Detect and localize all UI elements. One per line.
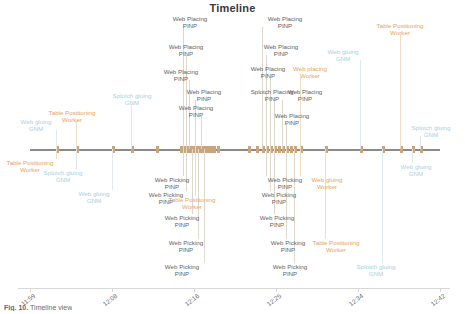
event-leader-line [76, 149, 77, 169]
event-leader-line [56, 149, 57, 159]
event-label[interactable]: Web PickingPINP [268, 176, 302, 191]
event-label-name: Web Picking [165, 263, 199, 270]
event-marker[interactable] [290, 146, 293, 153]
event-label-sub: PINP [271, 246, 305, 253]
event-label-name: Splotch gluing [113, 92, 152, 99]
event-label[interactable]: Splotch gluingGNM [44, 169, 83, 184]
event-label-sub: PINP [165, 221, 199, 228]
event-marker[interactable] [278, 146, 281, 153]
event-label[interactable]: Web PlacingPINP [268, 15, 303, 30]
event-label-name: Web Placing [275, 112, 310, 119]
event-leader-line [201, 116, 202, 149]
event-label-name: Web Placing [251, 65, 286, 72]
event-label[interactable]: Web PickingPINP [165, 214, 199, 229]
event-leader-line [300, 149, 301, 176]
event-label-name: Web Picking [165, 214, 199, 221]
event-label-sub: GNM [357, 270, 396, 277]
event-label-sub: GNM [21, 125, 52, 132]
event-label-name: Web gluing [79, 190, 110, 197]
event-label-sub: GNM [79, 197, 110, 204]
event-label-name: Splotch gluing [357, 263, 396, 270]
axis-tick-label: 12:08 [101, 292, 118, 307]
event-label[interactable]: Web gluingGNM [21, 118, 52, 133]
event-label[interactable]: Web PlacingPINP [275, 112, 310, 127]
event-label-name: Web gluing [21, 118, 52, 125]
event-marker[interactable] [248, 146, 251, 153]
event-label-name: Web gluing [328, 48, 359, 55]
event-label-sub: PINP [179, 111, 214, 118]
event-label-sub: GNM [412, 131, 451, 138]
event-label-sub: GNM [113, 99, 152, 106]
event-label-sub: PINP [155, 183, 189, 190]
event-label-name: Splotch gluing [412, 124, 451, 131]
event-label-name: Web Picking [268, 176, 302, 183]
event-label[interactable]: Web PlacingPINP [264, 43, 299, 58]
event-label[interactable]: Table PositioningWorker [169, 196, 216, 211]
event-label[interactable]: Web PlacingPINP [288, 88, 323, 103]
event-marker[interactable] [217, 146, 220, 153]
axis-tick-label: 12:42 [429, 292, 446, 307]
event-label[interactable]: Web PickingPINP [165, 263, 199, 278]
time-axis [18, 288, 450, 289]
event-label-name: Web Picking [271, 239, 305, 246]
event-label[interactable]: Web PlacingPINP [187, 88, 222, 103]
event-label-name: Web Placing [288, 88, 323, 95]
event-leader-line [266, 149, 267, 176]
event-label-sub: Worker [169, 203, 216, 210]
event-label-name: Table Positioning [7, 159, 54, 166]
event-label[interactable]: Web gluingGNM [401, 163, 432, 178]
event-label[interactable]: Web PlacingPINP [179, 104, 214, 119]
event-label[interactable]: Splotch gluingGNM [113, 92, 152, 107]
event-label[interactable]: Web PlacingPINP [251, 65, 286, 80]
event-label[interactable]: Web PickingPINP [155, 176, 189, 191]
event-label-sub: Worker [293, 72, 327, 79]
event-label[interactable]: Splotch gluingGNM [357, 263, 396, 278]
event-label[interactable]: Web PlacingPINP [173, 15, 208, 30]
event-label[interactable]: Table PositioningWorker [313, 239, 360, 254]
event-label-sub: PINP [268, 22, 303, 29]
event-label-name: Table Positioning [49, 109, 96, 116]
event-label[interactable]: Web gluingGNM [79, 190, 110, 205]
event-label-sub: GNM [328, 55, 359, 62]
event-leader-line [112, 149, 113, 190]
axis-tick-label: 12:16 [183, 292, 200, 307]
timeline-chart: Timeline Web gluingGNMTable PositioningW… [0, 0, 465, 314]
event-label-name: Web Placing [268, 15, 303, 22]
event-label-name: Web Placing [173, 15, 208, 22]
event-label[interactable]: Web PickingPINP [271, 239, 305, 254]
event-label[interactable]: Web gluingGNM [328, 48, 359, 63]
event-label[interactable]: Web placingWorker [293, 65, 327, 80]
axis-tick-label: 12:25 [265, 292, 282, 307]
event-leader-line [382, 149, 383, 263]
event-label[interactable]: Web PickingPINP [273, 263, 307, 278]
event-label[interactable]: Web gluingWorker [312, 176, 343, 191]
event-label-sub: PINP [164, 75, 199, 82]
event-label-sub: Worker [377, 29, 424, 36]
event-label[interactable]: Table PositioningWorker [377, 22, 424, 37]
event-label[interactable]: Web PickingPINP [262, 191, 296, 206]
event-leader-line [400, 34, 401, 149]
event-label-sub: PINP [288, 95, 323, 102]
event-label-sub: PINP [260, 221, 294, 228]
event-label[interactable]: Web PickingPINP [169, 239, 203, 254]
event-label-sub: PINP [169, 50, 204, 57]
event-label-sub: PINP [262, 198, 296, 205]
event-label-name: Web Placing [169, 43, 204, 50]
event-label-name: Web Picking [169, 239, 203, 246]
event-leader-line [183, 149, 184, 176]
event-leader-line [412, 149, 413, 163]
event-label[interactable]: Web PlacingPINP [164, 68, 199, 83]
event-label[interactable]: Splotch gluingGNM [412, 124, 451, 139]
event-marker[interactable] [213, 146, 216, 153]
event-label-sub: Worker [49, 116, 96, 123]
event-label[interactable]: Table PositioningWorker [49, 109, 96, 124]
event-marker[interactable] [256, 146, 259, 153]
event-label-name: Web gluing [312, 176, 343, 183]
event-label[interactable]: Web PickingPINP [260, 214, 294, 229]
event-label-sub: PINP [273, 270, 307, 277]
event-marker[interactable] [156, 146, 159, 153]
event-leader-line [195, 149, 196, 196]
event-label[interactable]: Web PlacingPINP [169, 43, 204, 58]
event-leader-line [131, 104, 132, 149]
event-leader-line [56, 130, 57, 149]
